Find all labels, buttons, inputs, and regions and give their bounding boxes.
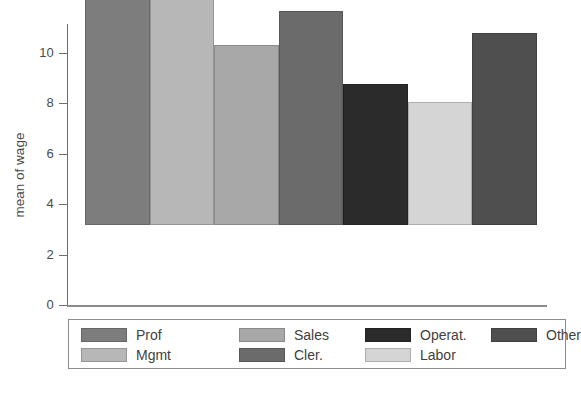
- legend-swatch-icon: [239, 348, 285, 362]
- legend-label: Cler.: [294, 346, 323, 364]
- legend-swatch-icon: [491, 328, 537, 342]
- legend-label: Sales: [294, 326, 329, 344]
- plot-area: mean of wage 0246810: [0, 0, 575, 320]
- legend-label: Mgmt: [136, 346, 171, 364]
- legend-swatch-icon: [81, 348, 127, 362]
- bar-mgmt: [150, 0, 215, 225]
- bar-sales: [214, 45, 279, 225]
- legend-label: Labor: [420, 346, 456, 364]
- bar-cler: [279, 11, 344, 225]
- legend-swatch-icon: [81, 328, 127, 342]
- bar-labor: [408, 102, 473, 225]
- legend-label: Other: [546, 326, 581, 344]
- legend-swatch-icon: [239, 328, 285, 342]
- legend-label: Operat.: [420, 326, 467, 344]
- chart-legend: ProfMgmtSalesCler.Operat.LaborOther: [68, 319, 566, 369]
- legend-swatch-icon: [365, 348, 411, 362]
- bar-prof: [85, 0, 150, 225]
- legend-swatch-icon: [365, 328, 411, 342]
- bars-layer: [0, 0, 575, 320]
- bar-operat: [343, 84, 408, 225]
- bar-other: [472, 33, 537, 225]
- legend-label: Prof: [136, 326, 162, 344]
